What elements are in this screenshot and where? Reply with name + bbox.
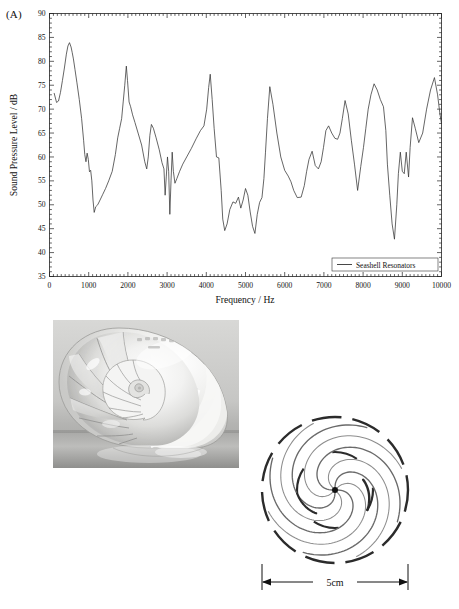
y-tick-label: 70 bbox=[38, 105, 46, 114]
x-tick-label: 1000 bbox=[81, 281, 96, 290]
x-tick-label: 9000 bbox=[395, 281, 410, 290]
y-tick-label: 35 bbox=[38, 272, 46, 281]
spl-frequency-chart: 0100020003000400050006000700080009000100… bbox=[0, 0, 459, 312]
chart-legend: Seashell Resonators bbox=[332, 258, 438, 271]
x-axis-title: Frequency / Hz bbox=[215, 294, 274, 305]
y-tick-label: 75 bbox=[38, 81, 46, 90]
x-tick-label: 6000 bbox=[277, 281, 292, 290]
y-tick-label: 50 bbox=[38, 200, 46, 209]
spiral-arm bbox=[317, 447, 400, 522]
x-tick-label: 2000 bbox=[120, 281, 135, 290]
y-tick-label: 90 bbox=[38, 9, 46, 18]
y-tick-label: 80 bbox=[38, 57, 46, 66]
spiral-arm-accent bbox=[363, 480, 369, 510]
x-tick-label: 0 bbox=[48, 281, 52, 290]
x-tick-label: 3000 bbox=[160, 281, 175, 290]
nautilus-shell-photo bbox=[53, 320, 239, 468]
dimension-label: 5cm bbox=[326, 577, 343, 588]
spiral-arm bbox=[270, 458, 353, 533]
y-tick-label: 85 bbox=[38, 33, 46, 42]
x-tick-label: 5000 bbox=[238, 281, 253, 290]
y-tick-label: 40 bbox=[38, 248, 46, 257]
x-tick-label: 10000 bbox=[432, 281, 451, 290]
panel-b-figures: (B) bbox=[0, 312, 459, 609]
y-tick-label: 55 bbox=[38, 176, 46, 185]
y-tick-label: 65 bbox=[38, 129, 46, 138]
y-tick-label: 45 bbox=[38, 224, 46, 233]
x-tick-label: 8000 bbox=[356, 281, 371, 290]
panel-a-chart: (A) 010002000300040005000600070008000900… bbox=[0, 0, 459, 312]
y-tick-label: 60 bbox=[38, 153, 46, 162]
center-point bbox=[332, 487, 338, 493]
x-tick-label: 4000 bbox=[199, 281, 214, 290]
plot-frame bbox=[50, 14, 442, 277]
spiral-resonator-diagram: 5cm bbox=[235, 412, 435, 602]
y-axis-title: Sound Pressure Level / dB bbox=[8, 94, 19, 196]
legend-label: Seashell Resonators bbox=[356, 261, 415, 270]
spiral-arm bbox=[292, 425, 367, 508]
x-tick-label: 7000 bbox=[316, 281, 331, 290]
